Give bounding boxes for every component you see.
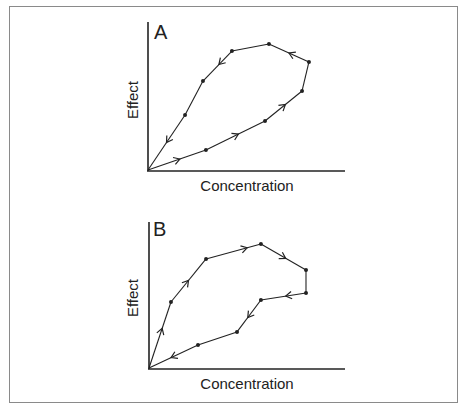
x-axis-label: Concentration [200,375,293,392]
data-point [183,113,187,117]
curve-segment [261,293,306,300]
panel-b: B Concentration Effect [124,218,345,392]
curve-segment [198,332,237,345]
curve-segment [206,121,265,150]
data-point [230,49,234,53]
data-point [201,79,205,83]
curve-segment [148,150,206,170]
curve-segment [237,300,261,332]
panel-label: B [153,218,166,240]
curve-segment [149,345,198,368]
data-point [235,330,239,334]
y-axis-label: Effect [124,80,141,119]
series-b [149,242,308,368]
data-point [169,300,173,304]
curve-segment [206,244,261,259]
panel-a: A Concentration Effect [124,21,345,194]
panel-label: A [154,21,168,43]
data-point [259,298,263,302]
curve-segment [203,51,232,81]
curve-segment [232,44,269,51]
data-point [196,343,200,347]
series-a [148,42,311,170]
x-axis-label: Concentration [200,177,293,194]
curve-segment [265,91,302,121]
direction-arrow-icon [167,135,173,142]
curve-segment [149,302,171,368]
data-point [263,119,267,123]
data-point [300,89,304,93]
data-point [204,257,208,261]
curve-segment [261,244,306,270]
data-point [304,268,308,272]
data-point [307,60,311,64]
data-point [304,291,308,295]
data-point [267,42,271,46]
y-axis-label: Effect [124,278,141,317]
curve-segment [185,81,203,115]
curve-segment [302,62,309,91]
data-point [259,242,263,246]
data-point [204,148,208,152]
figure-canvas: A Concentration Effect B Concentration E… [0,0,466,409]
